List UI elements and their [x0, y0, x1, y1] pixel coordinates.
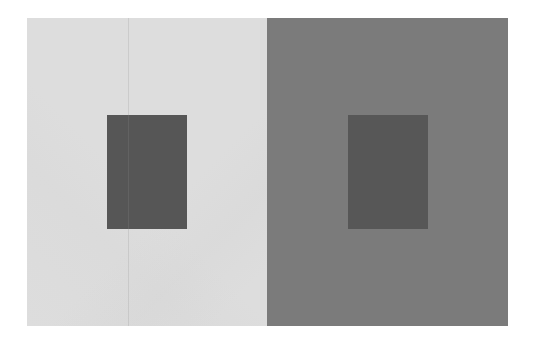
contrast-figure: [27, 18, 508, 326]
gray-square-on-dark: [348, 115, 428, 229]
gray-square-on-light: [107, 115, 187, 229]
light-background-panel: [27, 18, 267, 326]
dark-background-panel: [267, 18, 508, 326]
scan-seam: [128, 115, 129, 229]
